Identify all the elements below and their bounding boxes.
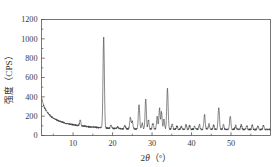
y-axis-title: 强度（CPS）: [3, 51, 14, 103]
x-axis-tick-label: 40: [187, 139, 195, 148]
y-axis-tick-label: 400: [25, 93, 37, 102]
y-axis-tick-label: 600: [25, 73, 37, 82]
x-axis-title: 2θ（°）: [141, 153, 172, 163]
x-axis-tick-label: 50: [227, 139, 235, 148]
y-axis-tick-label: 0: [33, 131, 37, 140]
xrd-figure: 02004006008001000120010203040502θ（°）强度（C…: [0, 0, 280, 167]
xrd-trace: [42, 37, 271, 130]
y-axis-tick-label: 1000: [21, 35, 37, 44]
y-axis-tick-label: 800: [25, 54, 37, 63]
y-axis-tick-label: 200: [25, 112, 37, 121]
x-axis-tick-label: 10: [69, 139, 77, 148]
svg-text:强度（CPS）: 强度（CPS）: [3, 51, 14, 103]
y-axis-tick-label: 1200: [21, 15, 37, 24]
plot-frame: [42, 20, 271, 136]
xrd-chart: 02004006008001000120010203040502θ（°）强度（C…: [0, 0, 280, 167]
x-axis-tick-label: 20: [108, 139, 116, 148]
x-axis-tick-label: 30: [148, 139, 156, 148]
